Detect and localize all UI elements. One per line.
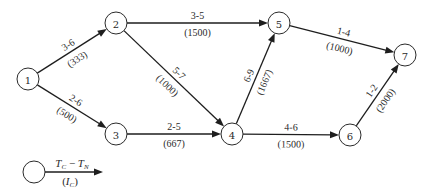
node-2: 2 [105,12,127,34]
edge-duration-label: 2-5 [167,121,180,132]
edge-2-5: 3-5(1500) [127,10,268,39]
arrowhead [212,131,221,138]
node-7: 7 [394,44,416,66]
edge-2-4: 5-7(1000) [124,31,224,127]
edge-line [243,134,333,135]
arrowhead [391,64,399,73]
node-4: 4 [221,123,243,145]
edge-cost-label: (1667) [254,68,275,97]
arrowhead [97,29,106,37]
edge-3-4: 2-5(667) [127,121,221,150]
arrowhead [385,47,395,54]
edge-duration-label: 1-2 [363,82,380,99]
edge-6-7: 1-2(2000) [356,64,399,126]
edge-1-2: 3-6(333) [37,29,106,73]
node-6: 6 [339,124,361,146]
legend-top-label: TC − TN [55,157,89,171]
node-1: 1 [17,68,39,90]
edge-duration-label: 5-7 [171,64,188,81]
edge-4-5: 6-9(1667) [236,33,275,124]
edge-1-3: 2-6(500) [37,85,106,128]
network-diagram: 3-6(333)2-6(500)3-5(1500)5-7(1000)2-5(66… [0,0,433,193]
edge-5-7: 1-4(1000) [290,25,395,58]
edge-line [124,31,220,123]
arrowhead [259,20,268,27]
edge-cost-label: (1000) [325,40,354,58]
node-3: 3 [105,123,127,145]
arrowhead [330,131,339,138]
node-label: 7 [402,51,408,62]
node-label: 3 [113,130,119,141]
edge-cost-label: (1500) [278,138,305,150]
legend: TC − TN (IC) [23,157,103,189]
node-5: 5 [268,12,290,34]
node-label: 5 [276,19,282,30]
legend-arrowhead [94,169,103,176]
node-label: 2 [113,19,119,30]
arrowhead [97,120,106,128]
edge-duration-label: 3-5 [191,10,204,21]
node-label: 6 [347,131,353,142]
legend-bottom-label: (IC) [62,175,78,189]
edge-duration-label: 1-4 [336,25,352,39]
edge-cost-label: (333) [65,49,90,71]
legend-node-circle [23,161,45,183]
node-label: 4 [229,130,235,141]
edge-4-6: 4-6(1500) [243,121,339,150]
arrowhead [268,33,275,43]
edge-cost-label: (667) [163,138,185,150]
edge-cost-label: (500) [54,104,79,126]
nodes-layer: 1234567 [17,12,416,146]
edge-duration-label: 4-6 [284,121,297,132]
node-label: 1 [25,75,31,86]
edge-cost-label: (1500) [184,27,211,39]
